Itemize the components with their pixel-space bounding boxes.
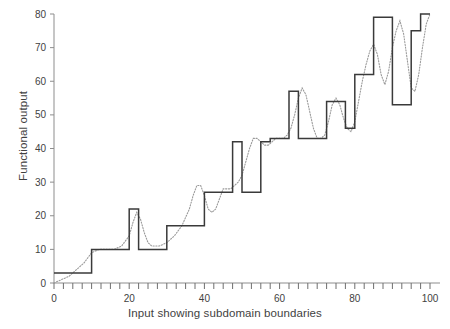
y-tick-label: 0	[40, 278, 46, 289]
y-tick-label: 80	[35, 9, 47, 20]
y-tick-label: 40	[35, 143, 47, 154]
chart-figure: Functional output Input showing subdomai…	[0, 0, 450, 329]
y-tick-label: 30	[35, 177, 47, 188]
y-axis: 01020304050607080	[35, 9, 54, 289]
y-tick-label: 10	[35, 244, 47, 255]
y-tick-label: 50	[35, 109, 47, 120]
x-tick-label: 80	[349, 293, 361, 304]
plot-canvas: 01020304050607080 020406080100	[0, 0, 450, 329]
x-tick-label: 60	[274, 293, 286, 304]
x-tick-label: 40	[199, 293, 211, 304]
y-tick-label: 20	[35, 210, 47, 221]
x-tick-label: 20	[124, 293, 136, 304]
step-approximation-curve	[54, 14, 430, 273]
data-series-group	[54, 14, 430, 283]
y-tick-label: 60	[35, 76, 47, 87]
x-tick-label: 0	[51, 293, 57, 304]
x-tick-label: 100	[422, 293, 439, 304]
x-axis: 020406080100	[51, 283, 440, 304]
y-tick-label: 70	[35, 42, 47, 53]
